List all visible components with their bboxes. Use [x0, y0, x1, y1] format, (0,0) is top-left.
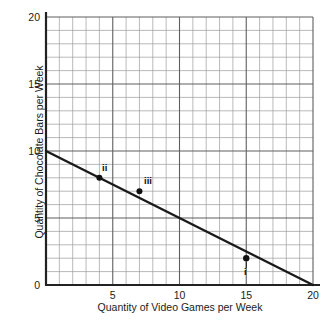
- data-point-i: [243, 255, 249, 261]
- x-tick-label-20: 20: [298, 290, 328, 301]
- x-tick-label-5: 5: [98, 290, 128, 301]
- y-axis-title-wrapper: Quantity of Chocolate Bars per Week: [33, 27, 47, 277]
- y-axis-title: Quantity of Chocolate Bars per Week: [33, 27, 45, 277]
- x-tick-label-15: 15: [231, 290, 261, 301]
- chart-plot-area: [0, 0, 336, 325]
- y-tick-label-0: 0: [14, 280, 40, 291]
- x-axis-title: Quantity of Video Games per Week: [46, 301, 314, 313]
- point-label-i: i: [244, 267, 247, 277]
- point-label-iii: iii: [144, 176, 152, 186]
- point-label-ii: ii: [102, 163, 107, 173]
- y-tick-label-20: 20: [14, 12, 40, 23]
- data-point-ii: [96, 175, 102, 181]
- x-tick-label-10: 10: [165, 290, 195, 301]
- chart-figure: 20 15 10 5 0 5 10 15 20 ii iii i Quantit…: [0, 0, 336, 325]
- data-point-iii: [136, 188, 142, 194]
